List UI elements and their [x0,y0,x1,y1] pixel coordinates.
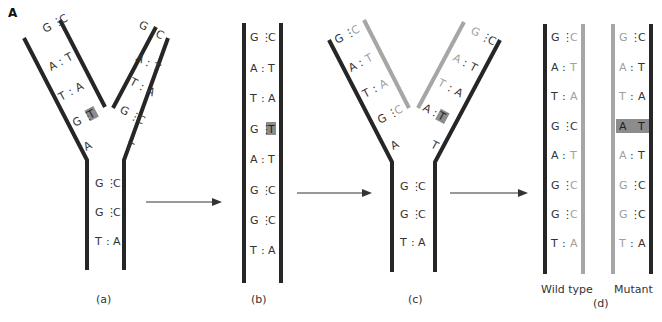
svg-text::: : [630,237,634,250]
mutant-pair-8: T:A [618,237,646,250]
svg-text:T: T [267,62,275,75]
svg-text:G: G [95,177,104,190]
arrow-c-to-d [450,189,528,197]
arrowhead-icon [518,189,528,197]
svg-text::: : [562,237,566,250]
wild-type-pairs: G⋮C A:T T:A G⋮C A:T G⋮C G⋮C T:A [550,31,578,250]
svg-text:A: A [388,137,401,152]
svg-text:T: T [637,61,645,74]
svg-text::: : [460,56,469,69]
wild-type-pair-5: A:T [551,149,577,162]
wild-type-pair-8: T:A [550,237,578,250]
svg-text::: : [137,80,146,93]
svg-text:T: T [149,60,162,75]
mutant-pair-6: G⋮C [619,179,646,192]
svg-text:A: A [268,244,276,257]
panel-c-second-replication-fork: G ⋮ C A : T T : A G ⋮ C A G ⋮ C A [329,20,500,306]
svg-text:G: G [250,184,259,197]
panel-c-right-template-strand [435,40,500,272]
panel-a-caption: (a) [96,293,111,306]
svg-text:T: T [94,235,102,248]
svg-text:C: C [418,208,426,221]
svg-text:G: G [619,208,628,221]
panel-a-stem-pair-3: T : A [94,235,121,248]
svg-text::: : [66,85,75,98]
wild-type-label: Wild type [541,283,593,296]
svg-text:T: T [123,139,136,154]
svg-text:T: T [62,50,75,65]
panel-c-right-pair-2: A : T [451,51,480,75]
panel-b-pair-5: A:T [250,153,275,166]
svg-text:C: C [418,180,426,193]
panel-c-caption: (c) [408,293,423,306]
panel-d-caption: (d) [593,297,609,310]
wild-type-pair-3: T:A [550,90,578,103]
svg-text:A: A [418,236,426,249]
svg-text:T: T [435,76,448,91]
svg-text:A: A [570,237,578,250]
wild-type-pair-2: A:T [551,61,577,74]
panel-a-left-pair-4-mismatch: G ⋮ T [70,106,99,130]
panel-c-right-pair-4-mutation: A : T [421,101,450,125]
replication-mutation-diagram: A G ⋮ C A : T T : A G ⋮ T [0,0,662,322]
svg-text:A: A [250,153,258,166]
svg-text::: : [630,61,634,74]
svg-text:G: G [250,214,259,227]
panel-c-left-pair-3: T : A [359,76,390,101]
svg-text:G: G [619,31,628,44]
svg-text:C: C [570,179,578,192]
svg-text::: : [261,244,265,257]
mutant-pair-1: G⋮C [619,31,646,44]
svg-text:T: T [637,120,645,133]
panel-b-daughter-duplex: G⋮C A:T T:A G⋮T A:T G⋮C G⋮C T:A (b) [244,23,281,306]
panel-a-left-pair-2: A : T [46,50,75,74]
wild-type-pair-6: G⋮C [551,179,578,192]
panel-c-left-unpaired: A [388,137,401,152]
panel-a-left-template-strand [24,38,87,270]
panel-a-right-pair-2: A : T [134,51,163,75]
panel-a-right-unpaired: T [123,139,136,154]
panel-c-right-pair-3: T : A [435,76,466,101]
mutant-pair-3: T:A [618,90,646,103]
svg-text:T: T [618,237,626,250]
svg-text::: : [261,92,265,105]
svg-text:T: T [267,153,275,166]
svg-text:G: G [551,208,560,221]
svg-text:C: C [570,31,578,44]
svg-text:A: A [619,61,627,74]
svg-text:A: A [638,237,646,250]
wild-type-pair-1: G⋮C [551,31,578,44]
svg-text:T: T [550,237,558,250]
mutant-pair-7: G⋮C [619,208,646,221]
svg-text:A: A [570,90,578,103]
svg-text::: : [630,149,634,162]
svg-text:A: A [619,149,627,162]
svg-text:A: A [377,76,390,91]
panel-b-pair-1: G⋮C [250,31,276,44]
arrow-a-to-b [146,198,222,206]
panel-c-left-pair-2: A : T [346,51,375,75]
panel-b-pairs: G⋮C A:T T:A G⋮T A:T G⋮C G⋮C T:A [249,31,276,257]
panel-a-left-new-strand [60,20,105,107]
svg-text:T: T [569,61,577,74]
svg-text:G: G [400,208,409,221]
mutant-pair-2: A:T [619,61,645,74]
panel-c-left-template-strand [329,40,392,272]
panel-c-left-pair-1: G ⋮ C [332,22,362,46]
svg-text::: : [56,55,65,68]
panel-b-pair-6: G⋮C [250,184,276,197]
mutant-pair-5: A:T [619,149,645,162]
svg-text:A: A [619,120,627,133]
svg-text:C: C [113,206,121,219]
svg-text::: : [445,81,454,94]
panel-c-stem-pair-2: G ⋮ C [400,208,426,221]
svg-text::: : [261,62,265,75]
panel-b-pair-7: G⋮C [250,214,276,227]
svg-text:A: A [113,235,121,248]
svg-text:A: A [268,92,276,105]
panel-a-replication-fork: G ⋮ C A : T T : A G ⋮ T A G ⋮ C [24,11,168,306]
svg-text:T: T [618,90,626,103]
mutant-label: Mutant [614,283,653,296]
svg-text:G: G [619,179,628,192]
svg-text:C: C [570,120,578,133]
